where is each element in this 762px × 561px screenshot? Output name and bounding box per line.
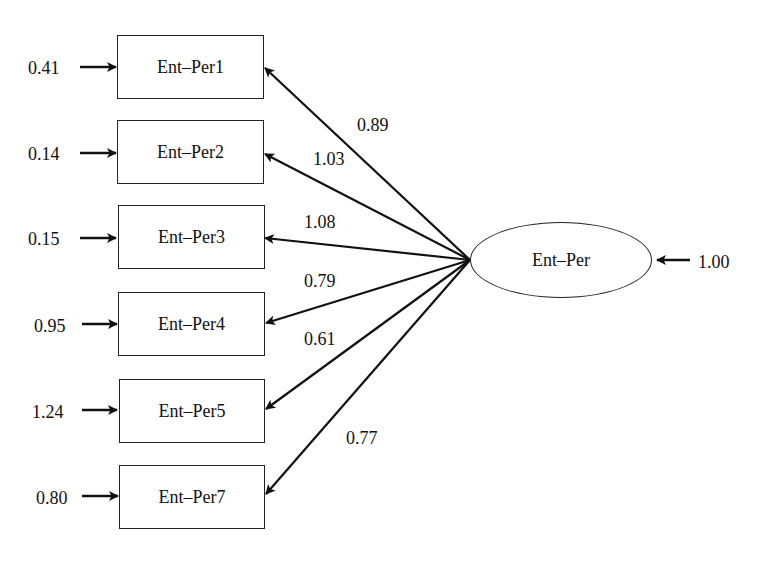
indicator-box-1: Ent–Per1 (117, 35, 264, 99)
error-value-7: 0.80 (36, 488, 68, 508)
indicator-label: Ent–Per2 (157, 142, 224, 163)
error-value-2: 0.14 (28, 144, 60, 164)
path-arrows (0, 0, 762, 561)
indicator-label: Ent–Per5 (159, 401, 226, 422)
loading-value-4: 0.79 (304, 271, 336, 291)
indicator-box-4: Ent–Per4 (118, 292, 265, 356)
latent-label: Ent–Per (532, 250, 590, 271)
loading-value-3: 1.08 (304, 212, 336, 232)
loading-value-2: 1.03 (313, 149, 345, 169)
loading-value-5: 0.61 (304, 329, 336, 349)
indicator-label: Ent–Per7 (159, 487, 226, 508)
latent-variance-value: 1.00 (698, 252, 730, 272)
error-value-4: 0.95 (34, 316, 66, 336)
indicator-label: Ent–Per1 (157, 57, 224, 78)
indicator-box-7: Ent–Per7 (119, 465, 265, 529)
loading-value-7: 0.77 (346, 428, 378, 448)
error-value-5: 1.24 (32, 402, 64, 422)
indicator-box-2: Ent–Per2 (117, 120, 264, 184)
indicator-label: Ent–Per3 (158, 227, 225, 248)
error-value-3: 0.15 (28, 229, 60, 249)
indicator-label: Ent–Per4 (158, 314, 225, 335)
indicator-box-5: Ent–Per5 (119, 379, 265, 443)
loading-value-1: 0.89 (357, 115, 389, 135)
error-value-1: 0.41 (28, 58, 60, 78)
latent-ellipse: Ent–Per (470, 222, 652, 298)
indicator-box-3: Ent–Per3 (118, 205, 265, 269)
